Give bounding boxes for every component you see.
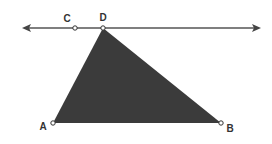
label-d: D xyxy=(99,12,106,23)
label-a: A xyxy=(39,121,46,132)
geometry-diagram: C D A B xyxy=(0,0,272,144)
point-a xyxy=(51,121,55,125)
point-b xyxy=(219,121,223,125)
diagram-canvas: C D A B xyxy=(0,0,272,144)
point-d xyxy=(101,26,105,30)
label-b: B xyxy=(226,123,233,134)
label-c: C xyxy=(63,13,70,24)
point-c xyxy=(73,26,77,30)
triangle-adb xyxy=(53,28,221,123)
